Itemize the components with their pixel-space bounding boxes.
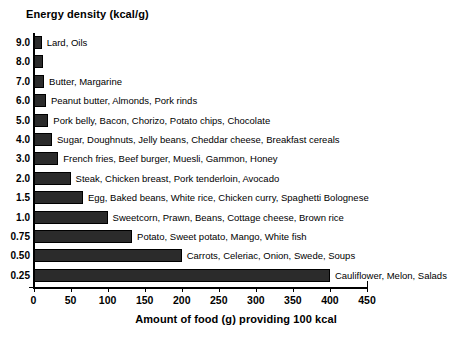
y-tick-label: 8.0 (0, 55, 30, 68)
bar (34, 152, 59, 165)
y-tick-label: 4.0 (0, 133, 30, 146)
x-tick-label: 200 (165, 294, 199, 306)
x-axis-title-text: Amount of food (g) providing 100 kcal (135, 313, 337, 325)
bar (34, 211, 108, 224)
bar (34, 133, 53, 146)
x-tick-label: 0 (17, 294, 51, 306)
y-tick-label: 3.0 (0, 152, 30, 165)
x-tick-mark (219, 287, 220, 292)
y-tick-label: 0.75 (0, 230, 30, 243)
y-tick-label: 1.0 (0, 211, 30, 224)
y-tick-label: 1.5 (0, 191, 30, 204)
x-tick-mark (182, 287, 183, 292)
bar (34, 114, 49, 127)
x-tick-mark (293, 287, 294, 292)
x-tick-mark (71, 287, 72, 292)
chart-title: Energy density (kcal/g) (26, 8, 149, 20)
x-tick-label: 50 (54, 294, 88, 306)
x-tick-mark (256, 287, 257, 292)
bar-annotation: Peanut butter, Almonds, Pork rinds (51, 94, 197, 107)
x-tick-mark (330, 287, 331, 292)
bar-annotation: Egg, Baked beans, White rice, Chicken cu… (88, 191, 369, 204)
bar (34, 191, 83, 204)
bar (34, 249, 182, 262)
bar (34, 230, 133, 243)
bar-annotation: Lard, Oils (47, 36, 88, 49)
y-tick-label: 0.50 (0, 249, 30, 262)
energy-density-bar-chart: Energy density (kcal/g) 9.0Lard, Oils8.0… (0, 0, 460, 344)
bar-annotation: Butter, Margarine (49, 75, 122, 88)
y-tick-label: 6.0 (0, 94, 30, 107)
x-tick-label: 300 (239, 294, 273, 306)
bar-annotation: Steak, Chicken breast, Pork tenderloin, … (76, 172, 280, 185)
x-tick-label: 250 (202, 294, 236, 306)
bar-annotation: Cauliflower, Melon, Salads (335, 269, 447, 282)
x-tick-label: 450 (350, 294, 384, 306)
x-tick-mark (34, 287, 35, 292)
x-tick-label: 150 (128, 294, 162, 306)
x-tick-label: 400 (313, 294, 347, 306)
x-tick-label: 100 (91, 294, 125, 306)
bar (34, 55, 43, 68)
bar-annotation: Pork belly, Bacon, Chorizo, Potato chips… (53, 114, 270, 127)
x-tick-mark (145, 287, 146, 292)
y-tick-label: 2.0 (0, 172, 30, 185)
y-tick-label: 0.25 (0, 269, 30, 282)
bar (34, 94, 46, 107)
bar (34, 36, 42, 49)
y-tick-label: 9.0 (0, 36, 30, 49)
bar (34, 269, 330, 282)
y-tick-label: 7.0 (0, 75, 30, 88)
bar (34, 75, 45, 88)
bar-annotation: Sugar, Doughnuts, Jelly beans, Cheddar c… (57, 133, 340, 146)
bar-annotation: Potato, Sweet potato, Mango, White fish (137, 230, 307, 243)
x-tick-label: 350 (276, 294, 310, 306)
x-tick-mark (108, 287, 109, 292)
bar-annotation: French fries, Beef burger, Muesli, Gammo… (63, 152, 277, 165)
y-tick-label: 5.0 (0, 114, 30, 127)
bar-annotation: Sweetcorn, Prawn, Beans, Cottage cheese,… (113, 211, 344, 224)
x-axis-title: Amount of food (g) providing 100 kcal (0, 313, 460, 325)
bar (34, 172, 71, 185)
x-tick-mark (367, 287, 368, 292)
x-axis-line (33, 287, 368, 289)
bar-annotation: Carrots, Celeriac, Onion, Swede, Soups (187, 249, 355, 262)
